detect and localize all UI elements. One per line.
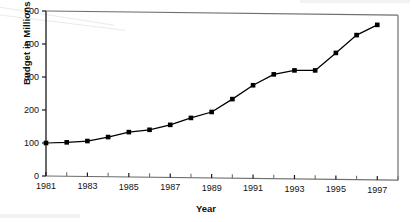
data-point-1986	[147, 128, 152, 133]
y-tick-label: 400	[0, 39, 39, 49]
data-point-1995	[334, 51, 339, 56]
data-point-1989	[209, 110, 214, 115]
x-tick-label: 1987	[160, 182, 180, 192]
data-point-1992	[271, 72, 276, 77]
data-point-1981	[44, 141, 49, 146]
data-point-1983	[85, 139, 90, 144]
data-point-1982	[64, 140, 69, 145]
data-point-1996	[354, 33, 359, 38]
data-point-1984	[106, 135, 111, 140]
x-tick-label: 1983	[77, 181, 97, 191]
x-tick-label: 1985	[119, 182, 139, 192]
plot-top-border	[46, 11, 398, 15]
data-point-1993	[292, 68, 297, 73]
x-axis-line	[46, 176, 398, 180]
x-tick-label: 1997	[367, 185, 387, 195]
x-tick-label: 1989	[202, 183, 222, 193]
data-point-1987	[168, 123, 173, 128]
x-tick-label: 1993	[284, 184, 304, 194]
chart-figure: Budget in Millions of Dollars Year 01002…	[0, 0, 412, 222]
plot-area: 0100200300400500198119831985198719891991…	[0, 0, 412, 222]
data-point-1997	[375, 23, 380, 28]
data-point-1994	[313, 68, 318, 73]
y-tick-label: 0	[0, 171, 39, 181]
y-tick-label: 200	[0, 105, 39, 115]
y-tick-label: 500	[0, 6, 39, 16]
data-point-1988	[189, 116, 194, 121]
x-tick-label: 1991	[243, 183, 263, 193]
data-point-1990	[230, 97, 235, 102]
data-point-1985	[127, 130, 132, 135]
data-point-1991	[251, 83, 256, 88]
y-tick-label: 100	[0, 138, 39, 148]
y-tick-label: 300	[0, 72, 39, 82]
x-tick-label: 1981	[36, 181, 56, 191]
data-series-line	[46, 25, 377, 143]
x-tick-label: 1995	[326, 184, 346, 194]
